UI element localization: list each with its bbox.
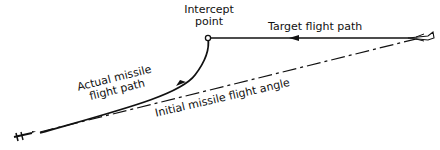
target-path-arrow-icon xyxy=(289,35,299,41)
intercept-label-line2: point xyxy=(183,16,235,28)
missile-icon xyxy=(14,131,36,141)
missile-intercept-diagram: Intercept point Target flight path Actua… xyxy=(0,0,440,150)
intercept-point-icon xyxy=(205,35,210,40)
target-flight-path-label: Target flight path xyxy=(268,21,362,33)
intercept-point-label: Intercept point xyxy=(183,4,235,28)
